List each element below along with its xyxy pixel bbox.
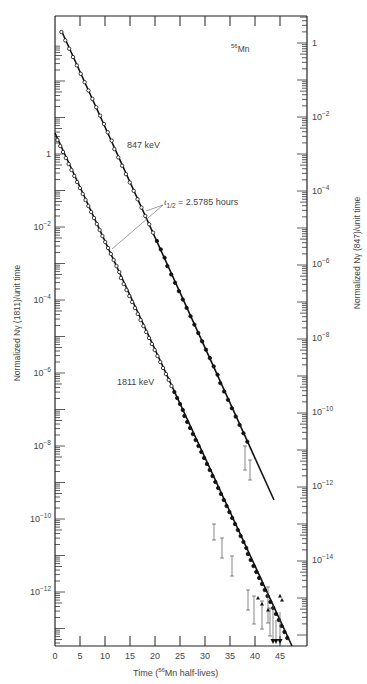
data-point: [214, 480, 217, 483]
data-point: [81, 192, 84, 195]
data-point: [75, 64, 78, 67]
data-point: [286, 636, 289, 639]
data-point: [219, 381, 222, 384]
data-point: [144, 214, 147, 217]
svg-text:10−10: 10−10: [30, 512, 51, 524]
isotope-mass: 56: [231, 43, 238, 49]
data-point: [280, 624, 283, 627]
data-point: [255, 570, 258, 573]
data-point: [104, 240, 107, 243]
data-point: [266, 594, 269, 597]
data-point: [110, 139, 113, 142]
data-point: [60, 30, 63, 33]
data-point: [194, 438, 197, 441]
data-point: [102, 122, 105, 125]
data-point: [142, 324, 145, 327]
data-point: [125, 288, 128, 291]
data-point: [246, 440, 249, 443]
data-point: [242, 432, 245, 435]
data-point: [95, 222, 98, 225]
data-point: [197, 444, 200, 447]
halflife-pointer-847: [146, 205, 163, 211]
data-point: [84, 198, 87, 201]
data-point: [145, 330, 148, 333]
data-point: [226, 398, 229, 401]
data-point: [249, 558, 252, 561]
svg-text:10−4: 10−4: [34, 293, 52, 305]
data-point: [153, 348, 156, 351]
halflife-sub: 1/2: [167, 202, 176, 209]
data-point: [64, 156, 67, 159]
svg-text:10−4: 10−4: [312, 184, 330, 196]
svg-text:10−12: 10−12: [312, 479, 333, 491]
svg-text:10−14: 10−14: [312, 553, 333, 565]
data-point: [170, 384, 173, 387]
series-label-847: 847 keV: [127, 140, 160, 150]
data-point: [211, 474, 214, 477]
svg-text:30: 30: [200, 651, 210, 661]
data-point: [208, 468, 211, 471]
data-point: [283, 630, 286, 633]
data-point: [181, 298, 184, 301]
data-point: [150, 342, 153, 345]
data-point: [256, 596, 260, 600]
data-point: [173, 281, 176, 284]
data-point: [92, 216, 95, 219]
data-point: [239, 534, 242, 537]
data-point: [112, 258, 115, 261]
data-point: [89, 210, 92, 213]
x-axis-ticks: [80, 636, 280, 646]
data-point: [278, 594, 282, 598]
data-point: [115, 264, 118, 267]
svg-text:15: 15: [125, 651, 135, 661]
data-point: [87, 204, 90, 207]
data-point: [197, 331, 200, 334]
data-point: [202, 456, 205, 459]
data-point: [140, 206, 143, 209]
data-point: [260, 602, 264, 606]
data-point: [124, 172, 127, 175]
data-point: [189, 315, 192, 318]
plot-frame: [55, 16, 307, 646]
data-point: [230, 516, 233, 519]
right-axis-ticks: [297, 17, 307, 635]
data-point: [59, 144, 62, 147]
data-point: [200, 340, 203, 343]
data-point: [245, 546, 248, 549]
data-point: [120, 164, 123, 167]
data-point: [159, 360, 162, 363]
data-point: [208, 356, 211, 359]
data-point: [175, 396, 178, 399]
svg-text:45: 45: [275, 651, 285, 661]
data-point: [252, 564, 255, 567]
data-point: [106, 131, 109, 134]
data-point: [204, 348, 207, 351]
data-point: [191, 432, 194, 435]
isotope-label: 56Mn: [231, 43, 250, 54]
halflife-value: = 2.5785 hours: [176, 197, 239, 207]
data-point: [185, 420, 188, 423]
data-points-1811: [56, 138, 289, 639]
data-point: [266, 608, 270, 612]
data-point: [159, 248, 162, 251]
right-axis-tick-labels: 110−210−410−610−810−1010−1210−14: [312, 38, 333, 565]
data-point: [185, 306, 188, 309]
data-point: [169, 273, 172, 276]
data-point: [222, 390, 225, 393]
x-axis-label: Time (56Mn half-lives): [133, 667, 218, 678]
data-point: [109, 252, 112, 255]
isotope-symbol: Mn: [238, 44, 250, 54]
data-point: [61, 150, 64, 153]
y-axis-label-right: Normalized Nγ (847)/unit time: [352, 178, 362, 328]
data-point: [79, 72, 82, 75]
x-axis-label-post: Mn half-lives): [165, 668, 219, 678]
data-point: [91, 97, 94, 100]
data-point: [132, 189, 135, 192]
data-point: [147, 336, 150, 339]
data-point: [246, 552, 249, 555]
data-point: [269, 600, 272, 603]
fit-line-1811: [55, 133, 292, 646]
data-point: [166, 264, 169, 267]
svg-text:10−6: 10−6: [312, 257, 330, 269]
data-point: [177, 289, 180, 292]
